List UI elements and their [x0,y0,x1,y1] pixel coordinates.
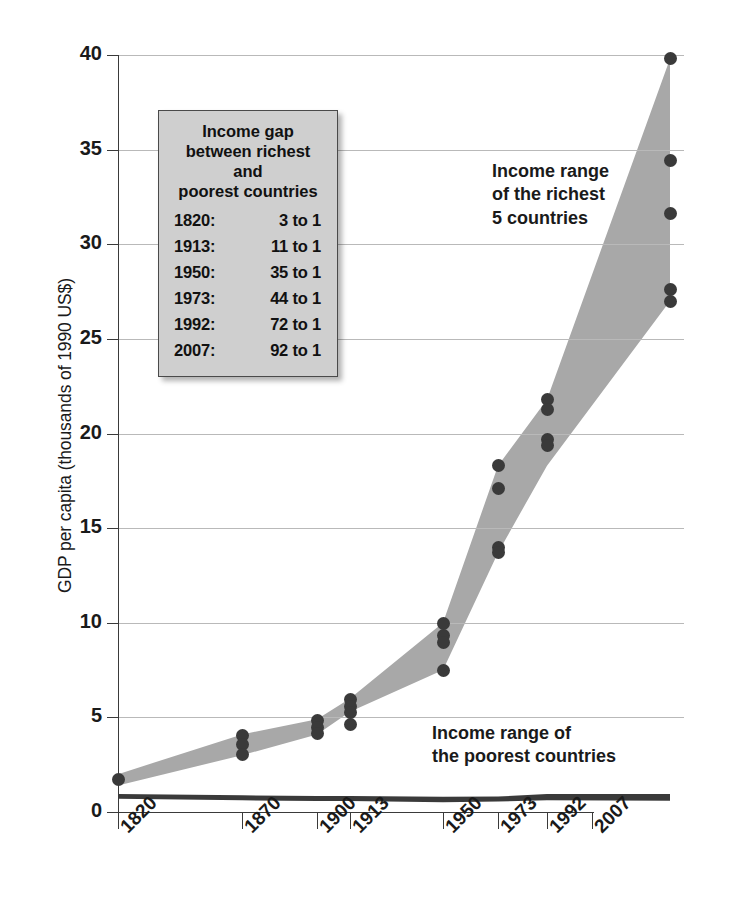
legend-row: 1973:44 to 1 [170,286,326,312]
y-tick-label: 15 [56,515,102,538]
data-point [664,52,677,65]
data-point [541,403,554,416]
annotation-richest-line3: 5 countries [492,207,609,230]
data-point [437,636,450,649]
legend-row: 1913:11 to 1 [170,234,326,260]
legend-row-ratio: 92 to 1 [270,341,324,360]
legend-row: 2007:92 to 1 [170,338,326,364]
data-point [492,546,505,559]
y-tick-mark [107,244,118,245]
y-tick-label: 35 [56,137,102,160]
annotation-richest-line1: Income range [492,160,609,183]
annotation-richest: Income range of the richest 5 countries [492,160,609,230]
gridline [118,55,684,56]
y-tick-label: 5 [56,704,102,727]
legend-row-year: 1973: [174,289,215,308]
legend-row-ratio: 72 to 1 [270,315,324,334]
gridline [118,623,684,624]
legend-row-year: 2007: [174,341,215,360]
y-tick-label: 30 [56,231,102,254]
data-point [236,748,249,761]
chart-figure: GDP per capita (thousands of 1990 US$) 4… [0,0,753,916]
y-tick-mark [107,55,118,56]
y-tick-mark [107,150,118,151]
band-poorest [118,794,670,802]
legend-title-line3: poorest countries [178,182,317,200]
y-tick-mark [107,812,118,813]
y-tick-mark [107,623,118,624]
y-tick-mark [107,339,118,340]
legend-row-year: 1820: [174,211,215,230]
y-tick-label: 10 [56,610,102,633]
data-point [344,718,357,731]
y-tick-label: 20 [56,421,102,444]
annotation-poorest-line2: the poorest countries [432,745,616,768]
data-point [664,154,677,167]
y-tick-mark [107,717,118,718]
y-tick-label: 0 [56,799,102,822]
legend-row-year: 1913: [174,237,215,256]
legend-row-year: 1992: [174,315,215,334]
income-gap-legend-box: Income gap between richest and poorest c… [158,110,338,377]
y-tick-label: 40 [56,42,102,65]
legend-title: Income gap between richest and poorest c… [170,121,326,202]
legend-row-ratio: 3 to 1 [279,211,324,230]
legend-row-ratio: 35 to 1 [270,263,324,282]
data-point [112,773,125,786]
y-tick-label: 25 [56,326,102,349]
data-point [664,207,677,220]
legend-rows: 1820:3 to 11913:11 to 11950:35 to 11973:… [170,208,326,364]
data-point [437,664,450,677]
legend-row-year: 1950: [174,263,215,282]
legend-row: 1820:3 to 1 [170,208,326,234]
data-point [311,727,324,740]
gridline [118,717,684,718]
legend-title-line2: between richest and [186,142,311,180]
legend-row-ratio: 44 to 1 [270,289,324,308]
gridline [118,434,684,435]
data-point [664,295,677,308]
annotation-poorest-line1: Income range of [432,722,616,745]
y-axis-line [118,55,119,813]
annotation-poorest: Income range of the poorest countries [432,722,616,769]
legend-row-ratio: 11 to 1 [271,237,324,256]
legend-row: 1950:35 to 1 [170,260,326,286]
legend-row: 1992:72 to 1 [170,312,326,338]
y-tick-mark [107,528,118,529]
data-point [344,706,357,719]
data-point [541,439,554,452]
annotation-richest-line2: of the richest [492,183,609,206]
y-tick-mark [107,434,118,435]
data-point [492,459,505,472]
legend-title-line1: Income gap [202,122,294,140]
data-point [492,482,505,495]
gridline [118,528,684,529]
